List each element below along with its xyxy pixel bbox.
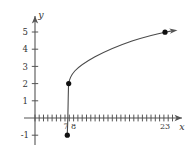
y-tick-label-3: 3 bbox=[23, 62, 28, 72]
x-tick-label-23: 23 bbox=[160, 122, 170, 131]
x-tick-label-7: 7 bbox=[64, 122, 69, 131]
x-axis-label: x bbox=[179, 121, 185, 132]
data-point-8-2 bbox=[66, 81, 71, 86]
y-tick-label-1: 1 bbox=[23, 96, 28, 106]
y-tick-label-2: 2 bbox=[23, 79, 28, 89]
y-axis-label: y bbox=[37, 9, 44, 20]
y-tick-label-5: 5 bbox=[23, 27, 28, 37]
y-tick-label-4: 4 bbox=[23, 44, 28, 54]
y-tick-label-neg1: -1 bbox=[21, 130, 29, 140]
graph-figure: 5 4 3 2 1 -1 7 8 23 x y bbox=[0, 0, 195, 160]
data-point-8-neg1 bbox=[65, 133, 70, 138]
data-point-23-5 bbox=[162, 30, 167, 35]
x-tick-label-8: 8 bbox=[71, 122, 76, 131]
